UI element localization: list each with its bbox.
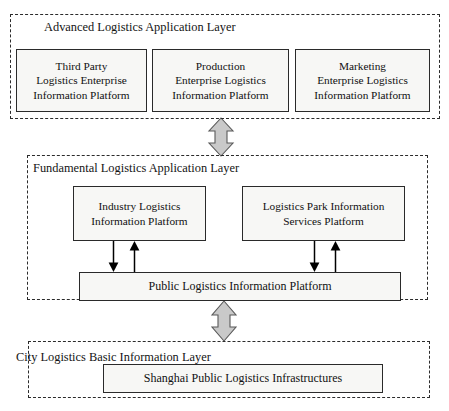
box-line: Information Platform	[91, 214, 187, 228]
box-line: Logistics Park Information	[263, 199, 385, 213]
box-line: Information Platform	[314, 88, 410, 102]
box-third-party-logistics-enterprise-information-platform[interactable]: Third PartyLogistics EnterpriseInformati…	[16, 49, 147, 112]
box-line: Production	[172, 59, 268, 73]
box-industry-logistics-information-platform[interactable]: Industry LogisticsInformation Platform	[73, 186, 206, 241]
logistics-architecture-diagram: Advanced Logistics Application Layer Thi…	[0, 0, 449, 411]
box-marketing-enterprise-logistics-information-platform[interactable]: MarketingEnterprise LogisticsInformation…	[295, 49, 430, 112]
layer-advanced-title: Advanced Logistics Application Layer	[44, 20, 236, 34]
box-label: Logistics Park InformationServices Platf…	[263, 199, 385, 227]
box-line: Enterprise Logistics	[314, 73, 410, 87]
box-label: ProductionEnterprise LogisticsInformatio…	[172, 59, 268, 102]
box-line: Marketing	[314, 59, 410, 73]
box-label: Shanghai Public Logistics Infrastructure…	[144, 371, 342, 385]
box-line: Logistics Enterprise	[33, 73, 129, 87]
box-label: MarketingEnterprise LogisticsInformation…	[314, 59, 410, 102]
box-production-enterprise-logistics-information-platform[interactable]: ProductionEnterprise LogisticsInformatio…	[152, 49, 289, 112]
box-logistics-park-information-services-platform[interactable]: Logistics Park InformationServices Platf…	[242, 186, 405, 241]
box-line: Enterprise Logistics	[172, 73, 268, 87]
box-label: Third PartyLogistics EnterpriseInformati…	[33, 59, 129, 102]
box-line: Third Party	[33, 59, 129, 73]
box-shanghai-public-logistics-infrastructures[interactable]: Shanghai Public Logistics Infrastructure…	[103, 364, 383, 393]
layer-city-title: City Logistics Basic Information Layer	[16, 350, 211, 364]
connector-advanced-to-fundamental-icon	[209, 118, 233, 156]
box-line: Services Platform	[263, 214, 385, 228]
box-line: Information Platform	[33, 88, 129, 102]
layer-fundamental-title: Fundamental Logistics Application Layer	[33, 161, 239, 175]
box-line: Industry Logistics	[91, 199, 187, 213]
box-label: Industry LogisticsInformation Platform	[91, 199, 187, 227]
connector-fundamental-to-city-icon	[212, 301, 236, 341]
box-label: Public Logistics Information Platform	[149, 279, 332, 293]
box-public-logistics-information-platform[interactable]: Public Logistics Information Platform	[79, 272, 401, 301]
box-line: Information Platform	[172, 88, 268, 102]
